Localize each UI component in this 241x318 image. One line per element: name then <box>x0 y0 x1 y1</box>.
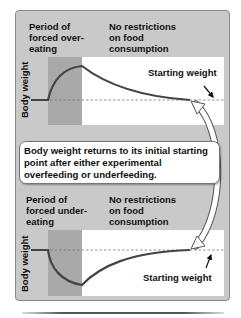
bottom-y-axis-label: Body weight <box>19 236 30 292</box>
top-starting-weight-label: Starting weight <box>148 67 217 78</box>
forced-undereating-shade <box>48 230 82 296</box>
callout-box: Body weight returns to its initial start… <box>19 141 220 184</box>
bottom-starting-weight-label: Starting weight <box>143 272 212 283</box>
top-free-label: No restrictions on food consumption <box>109 21 176 54</box>
bottom-period-label: Period of forced under- eating <box>26 194 87 227</box>
top-y-axis-label: Body weight <box>19 62 30 118</box>
top-period-label: Period of forced over- eating <box>29 21 84 54</box>
bottom-free-label: No restrictions on food consumption <box>109 194 176 227</box>
bottom-rule <box>22 312 224 314</box>
